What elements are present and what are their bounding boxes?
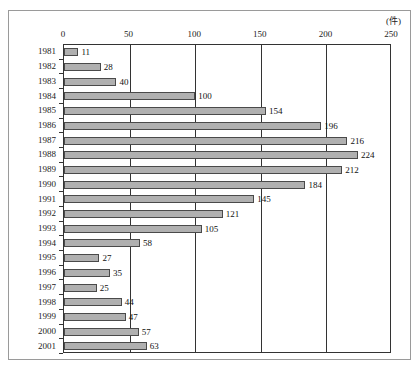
bar-row: 184 <box>64 177 390 192</box>
bar-1986 <box>64 122 321 130</box>
bar-1984 <box>64 92 195 100</box>
bar-1985 <box>64 107 266 115</box>
unit-label: (件) <box>386 14 401 27</box>
bar-2001 <box>64 342 147 350</box>
y-label-1989: 1989 <box>38 164 56 174</box>
x-tick-label-50: 50 <box>124 29 133 39</box>
bar-row: 145 <box>64 192 390 207</box>
x-tick-label-200: 200 <box>319 29 333 39</box>
bar-1991 <box>64 195 254 203</box>
bar-row: 47 <box>64 310 390 325</box>
bar-row: 63 <box>64 339 390 354</box>
x-axis-tick-labels: 050100150200250 <box>9 29 410 41</box>
bar-row: 28 <box>64 60 390 75</box>
bar-1983 <box>64 78 116 86</box>
bar-value-label-1986: 196 <box>321 121 338 131</box>
bar-row: 27 <box>64 251 390 266</box>
y-label-2000: 2000 <box>38 326 56 336</box>
bar-value-label-1996: 35 <box>110 268 122 278</box>
y-axis-category-labels: 1981198219831984198519861987198819891990… <box>9 44 61 353</box>
y-label-1994: 1994 <box>38 238 56 248</box>
y-label-1986: 1986 <box>38 120 56 130</box>
y-label-1996: 1996 <box>38 267 56 277</box>
bar-value-label-1983: 40 <box>116 77 128 87</box>
y-label-1999: 1999 <box>38 311 56 321</box>
y-label-1991: 1991 <box>38 194 56 204</box>
y-label-1992: 1992 <box>38 208 56 218</box>
x-tick-label-250: 250 <box>384 29 398 39</box>
y-label-2001: 2001 <box>38 341 56 351</box>
chart-frame: (件) 050100150200250 19811982198319841985… <box>8 10 411 360</box>
bar-row: 224 <box>64 148 390 163</box>
y-label-1998: 1998 <box>38 297 56 307</box>
bar-value-label-1987: 216 <box>347 136 364 146</box>
bar-row: 40 <box>64 74 390 89</box>
bar-value-label-1998: 44 <box>122 297 134 307</box>
bar-1982 <box>64 63 101 71</box>
bar-2000 <box>64 328 139 336</box>
bar-value-label-1988: 224 <box>358 150 375 160</box>
y-tick-2001 <box>59 353 63 354</box>
bar-row: 100 <box>64 89 390 104</box>
bar-value-label-1981: 11 <box>78 47 90 57</box>
y-label-1985: 1985 <box>38 105 56 115</box>
bar-value-label-1985: 154 <box>266 106 283 116</box>
x-tick-label-0: 0 <box>61 29 66 39</box>
bar-row: 57 <box>64 324 390 339</box>
bar-row: 154 <box>64 104 390 119</box>
y-label-1982: 1982 <box>38 61 56 71</box>
bar-row: 58 <box>64 236 390 251</box>
bar-row: 105 <box>64 221 390 236</box>
bar-value-label-1994: 58 <box>140 238 152 248</box>
x-tick-label-150: 150 <box>253 29 267 39</box>
y-label-1988: 1988 <box>38 149 56 159</box>
bar-row: 216 <box>64 133 390 148</box>
bar-value-label-2001: 63 <box>147 341 159 351</box>
bar-1998 <box>64 298 122 306</box>
bar-1992 <box>64 210 223 218</box>
bar-value-label-1989: 212 <box>342 165 359 175</box>
bar-row: 196 <box>64 119 390 134</box>
plot-area: 1128401001541962162242121841451211055827… <box>63 44 391 353</box>
bar-value-label-1990: 184 <box>305 180 322 190</box>
y-label-1984: 1984 <box>38 91 56 101</box>
bar-row: 121 <box>64 207 390 222</box>
bar-value-label-1991: 145 <box>254 194 271 204</box>
y-label-1995: 1995 <box>38 252 56 262</box>
y-label-1993: 1993 <box>38 223 56 233</box>
bar-value-label-1997: 25 <box>97 283 109 293</box>
y-label-1983: 1983 <box>38 76 56 86</box>
bar-1999 <box>64 313 126 321</box>
x-tick-label-100: 100 <box>187 29 201 39</box>
y-label-1990: 1990 <box>38 179 56 189</box>
y-label-1997: 1997 <box>38 282 56 292</box>
bar-1997 <box>64 284 97 292</box>
bar-1989 <box>64 166 342 174</box>
bar-value-label-1995: 27 <box>99 253 111 263</box>
bar-row: 25 <box>64 280 390 295</box>
y-label-1987: 1987 <box>38 135 56 145</box>
bar-1996 <box>64 269 110 277</box>
bar-row: 11 <box>64 45 390 60</box>
bar-rows: 1128401001541962162242121841451211055827… <box>64 45 390 352</box>
bar-value-label-1982: 28 <box>101 62 113 72</box>
bar-row: 44 <box>64 295 390 310</box>
bar-value-label-1984: 100 <box>195 91 212 101</box>
bar-value-label-1999: 47 <box>126 312 138 322</box>
bar-row: 35 <box>64 266 390 281</box>
bar-1994 <box>64 239 140 247</box>
bar-1993 <box>64 225 202 233</box>
bar-row: 212 <box>64 163 390 178</box>
bar-1990 <box>64 181 305 189</box>
bar-1995 <box>64 254 99 262</box>
bar-1987 <box>64 137 347 145</box>
y-label-1981: 1981 <box>38 46 56 56</box>
bar-value-label-2000: 57 <box>139 327 151 337</box>
bar-value-label-1993: 105 <box>202 224 219 234</box>
bar-1988 <box>64 151 358 159</box>
bar-1981 <box>64 48 78 56</box>
bar-value-label-1992: 121 <box>223 209 240 219</box>
